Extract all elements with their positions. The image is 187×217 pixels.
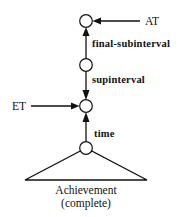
arrowhead-up-icon: [83, 27, 90, 36]
achievement-structure-diagram: AT ET final-subinterval supinterval time…: [0, 0, 187, 217]
final-subinterval-label: final-subinterval: [92, 38, 170, 49]
supinterval-label: supinterval: [92, 74, 145, 85]
time-label: time: [94, 128, 115, 139]
et-label: ET: [12, 100, 26, 112]
arrowhead-left-icon: [93, 18, 102, 25]
arrowhead-down-icon: [83, 90, 90, 100]
triangle-label-complete: (complete): [61, 197, 111, 210]
node-et: [80, 100, 93, 113]
arrowhead-right-icon: [71, 103, 80, 110]
triangle-label-achievement: Achievement: [55, 184, 117, 196]
arrowhead-up-icon: [83, 112, 90, 122]
node-top: [80, 15, 93, 28]
node-middle: [80, 59, 93, 72]
at-label: AT: [145, 15, 159, 27]
node-bottom: [80, 142, 93, 155]
